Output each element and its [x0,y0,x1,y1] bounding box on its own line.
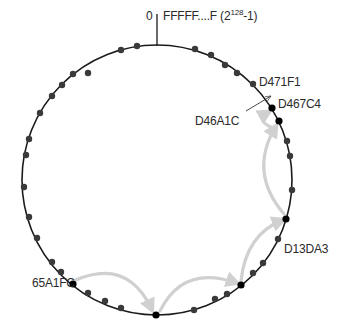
ring-node [284,138,290,144]
ring-node [250,270,256,276]
ring-node [26,214,32,220]
ring-node [34,235,40,241]
ring-node [70,71,76,77]
highlighted-node [152,311,159,318]
ring-node [192,46,198,52]
ring-node [102,298,108,304]
ring-node [37,110,43,116]
ring-node [59,82,65,88]
ring-node [85,70,91,76]
ring-node [85,290,91,296]
ring-node [26,136,32,142]
ring-node [287,153,293,159]
ring-node [58,269,64,275]
ring-node [134,43,140,49]
highlighted-node [282,215,289,222]
max-hash-suffix: -1) [243,9,257,23]
ring-node [224,291,230,297]
key-pointer-line [246,96,271,111]
ring-node [208,52,214,58]
highlighted-node [275,117,282,124]
hop-arrow [241,220,283,281]
lookup-hop-arrows [76,112,284,311]
ring-node [212,296,218,302]
ring-node [260,260,266,266]
zero-label: 0 [146,9,152,23]
hop-arrow [264,126,284,214]
ring-node [49,259,55,265]
node-label-d13da3: D13DA3 [284,242,328,256]
node-label-d467c4: D467C4 [278,97,321,111]
ring-node [234,70,240,76]
node-label-65a1fc: 65A1FC [32,276,75,290]
highlighted-node [268,104,275,111]
ring-node [23,152,29,158]
ring-node [118,305,124,311]
key-label-d46a1c: D46A1C [195,114,239,128]
ring-node [222,62,228,68]
ring-node [250,81,256,87]
ring-node [118,47,124,53]
max-hash-exponent: 128 [230,8,243,17]
max-hash-label: FFFFF....F (2128-1) [163,9,257,23]
max-hash-prefix: FFFFF....F (2 [163,9,230,23]
node-label-d471f1: D471F1 [259,75,301,89]
ring-node [191,307,197,313]
ring-node [289,187,295,193]
ring-node [21,184,27,190]
ring-node [49,93,55,99]
highlighted-node [237,281,244,288]
ring-nodes [21,43,295,313]
hop-arrow [262,112,271,127]
ring-node [275,236,281,242]
